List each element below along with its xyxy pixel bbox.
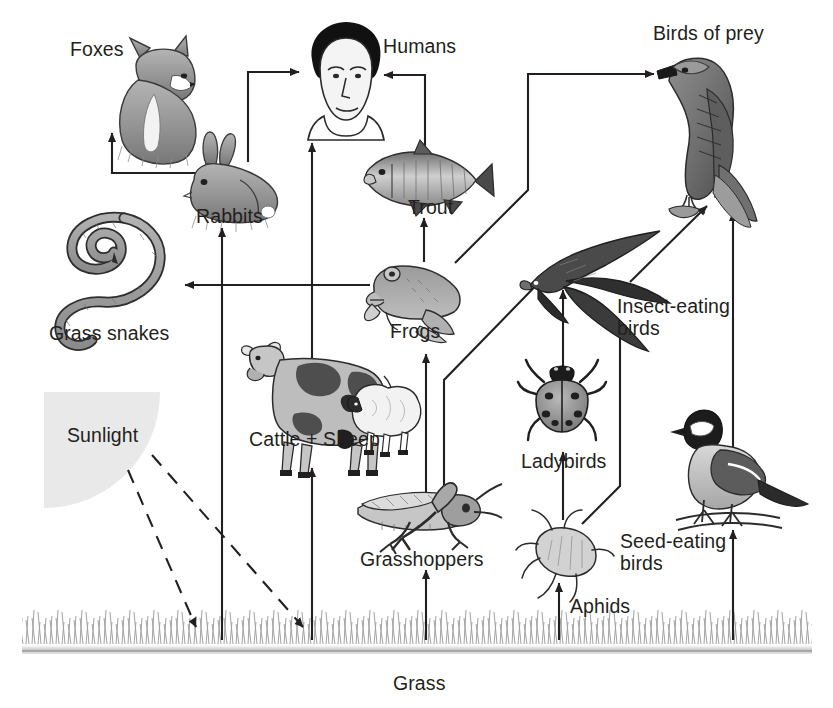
label-birds-of-prey: Birds of prey xyxy=(653,22,764,44)
label-trout: Trout xyxy=(408,196,453,218)
ladybird-illustration xyxy=(518,360,606,440)
label-sunlight: Sunlight xyxy=(67,424,138,446)
label-seed-eating-birds: Seed-eating birds xyxy=(620,530,726,574)
grass-band xyxy=(22,607,812,654)
edge-rabbits-humans xyxy=(248,72,299,162)
food-web-diagram: Foxes Humans Birds of prey Rabbits Trout… xyxy=(0,0,833,708)
edge-sunlight-grass-2 xyxy=(152,455,303,627)
label-grasshoppers: Grasshoppers xyxy=(360,548,484,570)
aphid-illustration xyxy=(516,510,614,602)
label-frogs: Frogs xyxy=(390,320,440,342)
human-illustration xyxy=(308,22,384,140)
label-aphids: Aphids xyxy=(570,595,630,617)
sunlight-shape xyxy=(44,392,160,508)
grasshopper-illustration xyxy=(358,483,502,554)
label-insect-eating-birds: Insect-eating birds xyxy=(617,295,730,339)
label-humans: Humans xyxy=(383,35,456,57)
edge-frogs-birdsofprey xyxy=(455,74,654,263)
label-rabbits: Rabbits xyxy=(196,205,263,227)
diagram-canvas xyxy=(0,0,833,708)
fox-illustration xyxy=(118,36,196,168)
label-grass-snakes: Grass snakes xyxy=(49,322,169,344)
label-grass: Grass xyxy=(393,672,446,694)
label-ladybirds: Ladybirds xyxy=(521,450,606,472)
label-foxes: Foxes xyxy=(70,38,124,60)
label-cattle-sheep: Cattle + Sheep xyxy=(249,428,380,450)
birds-of-prey-illustration xyxy=(657,58,757,227)
seed-eating-bird-illustration xyxy=(670,410,808,530)
